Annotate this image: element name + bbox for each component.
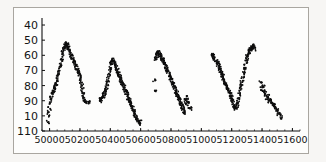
y-tick-label: 40 bbox=[24, 19, 38, 32]
figure-container: 4050607080901011050000502005040050600508… bbox=[0, 0, 326, 162]
scatter-chart: 4050607080901011050000502005040050600508… bbox=[0, 0, 326, 162]
x-tick-label: 51600 bbox=[277, 134, 307, 145]
x-tick-label: 50600 bbox=[126, 134, 156, 145]
x-tick-label: 50000 bbox=[34, 134, 64, 145]
x-tick-label: 50200 bbox=[65, 134, 95, 145]
plot-area: 4050607080901011050000502005040050600508… bbox=[0, 0, 326, 162]
x-tick-label: 51200 bbox=[217, 134, 247, 145]
x-tick-label: 50800 bbox=[156, 134, 186, 145]
x-tick-label: 50400 bbox=[95, 134, 125, 145]
data-points bbox=[46, 41, 283, 126]
x-tick-label: 51000 bbox=[186, 134, 216, 145]
y-tick-label: 80 bbox=[24, 80, 38, 93]
y-tick-label: 10 bbox=[24, 110, 38, 123]
y-tick-label: 50 bbox=[24, 34, 38, 47]
y-tick-label: 70 bbox=[24, 64, 38, 77]
y-tick-label: 60 bbox=[24, 49, 38, 62]
y-axis-ticks: 40506070809010110 bbox=[17, 19, 45, 138]
x-tick-label: 51400 bbox=[247, 134, 277, 145]
y-tick-label: 90 bbox=[24, 95, 38, 108]
